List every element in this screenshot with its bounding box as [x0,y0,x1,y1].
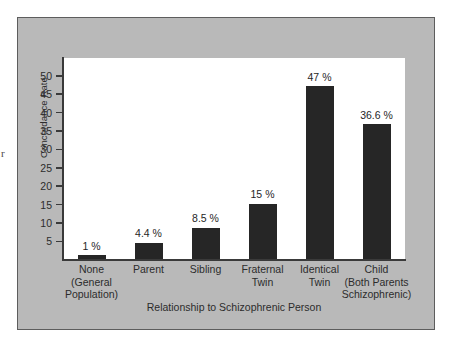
x-axis-title: Relationship to Schizophrenic Person [63,301,405,313]
bar-group: 8.5 % [177,58,234,259]
y-tick: 35 [56,130,63,132]
y-tick: 15 [56,204,63,206]
category-label-line: Population) [51,288,132,301]
bar [363,124,391,259]
bar-value-label: 15 % [251,189,275,200]
y-tick: 20 [56,185,63,187]
y-tick-label: 15 [40,199,52,210]
bar-group: 1 % [63,58,120,259]
bar-group: 4.4 % [120,58,177,259]
category-label-line: (General [51,276,132,289]
bar-group: 47 % [291,58,348,259]
category-label-line: Child [336,263,417,276]
y-tick: 30 [56,149,63,151]
y-axis-title: Concordance Rate [38,48,49,188]
bar-value-label: 36.6 % [360,110,393,121]
y-tick: 5 [56,241,63,243]
bar [249,204,277,259]
category-label-line: (Both Parents [336,276,417,289]
bar-value-label: 4.4 % [135,228,162,239]
y-tick: 40 [56,112,63,114]
bar-group: 36.6 % [348,58,405,259]
page-edge-glyph: r [1,148,5,159]
y-tick: 50 [56,75,63,77]
x-axis-line [62,259,406,261]
bar-value-label: 1 % [82,241,100,252]
category-label-line: Schizophrenic) [336,288,417,301]
bar [192,228,220,259]
y-tick-label: 5 [46,236,52,247]
y-tick: 10 [56,222,63,224]
bar-value-label: 8.5 % [192,213,219,224]
bar [78,255,106,259]
bar-value-label: 47 % [308,72,332,83]
category-label: Child(Both ParentsSchizophrenic) [336,263,417,301]
bar [135,243,163,259]
y-tick: 25 [56,167,63,169]
y-tick-label: 10 [40,218,52,229]
figure-frame: 5045403530252015105 1 %4.4 %8.5 %15 %47 … [17,17,435,330]
bar-group: 15 % [234,58,291,259]
bar [306,86,334,259]
y-tick: 45 [56,93,63,95]
